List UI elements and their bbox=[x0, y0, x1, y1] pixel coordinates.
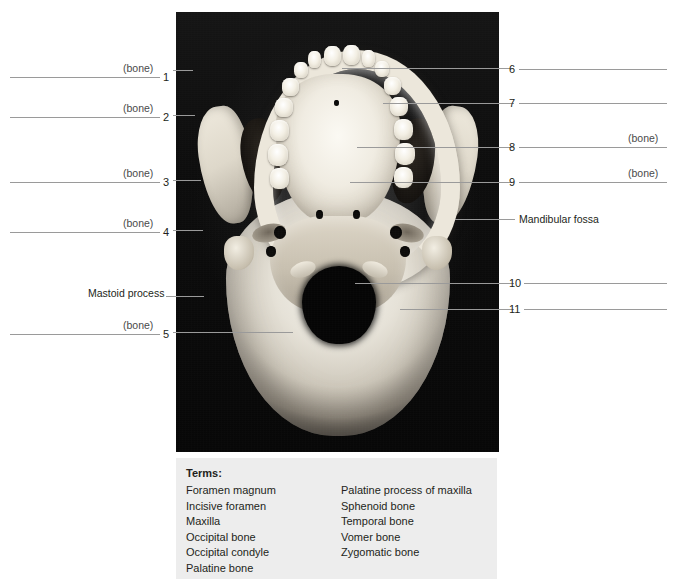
label-number-7: 7 bbox=[509, 98, 515, 109]
label-2-qualifier: (bone) bbox=[123, 103, 153, 114]
term-item: Temporal bone bbox=[341, 514, 496, 530]
term-item: Incisive foramen bbox=[186, 499, 341, 515]
term-item: Occipital condyle bbox=[186, 545, 341, 561]
label-number-11: 11 bbox=[509, 304, 520, 315]
term-item: Palatine process of maxilla bbox=[341, 483, 496, 499]
label-3-qualifier: (bone) bbox=[123, 168, 153, 179]
leader-tick-3 bbox=[173, 180, 201, 181]
leader-line-mandibular-fossa bbox=[455, 219, 515, 220]
terms-columns: Foramen magnum Incisive foramen Maxilla … bbox=[186, 483, 497, 576]
terms-column-2: Palatine process of maxilla Sphenoid bon… bbox=[341, 483, 496, 576]
term-item: Palatine bone bbox=[186, 561, 341, 577]
leader-line-2 bbox=[10, 117, 160, 118]
leader-tick-4 bbox=[173, 230, 203, 231]
leader-tick-9 bbox=[350, 182, 514, 183]
label-5-qualifier: (bone) bbox=[123, 320, 153, 331]
leader-line-10 bbox=[524, 283, 667, 284]
leader-tick-8 bbox=[357, 147, 514, 148]
label-number-4: 4 bbox=[163, 227, 169, 238]
label-number-1: 1 bbox=[163, 72, 169, 83]
label-number-5: 5 bbox=[163, 329, 169, 340]
terms-column-1: Foramen magnum Incisive foramen Maxilla … bbox=[186, 483, 341, 576]
label-1-qualifier: (bone) bbox=[123, 63, 153, 74]
terms-box: Terms: Foramen magnum Incisive foramen M… bbox=[176, 458, 497, 579]
label-mastoid-process: Mastoid process bbox=[88, 288, 164, 299]
leader-line-11 bbox=[524, 309, 667, 310]
label-4-qualifier: (bone) bbox=[123, 218, 153, 229]
term-item: Foramen magnum bbox=[186, 483, 341, 499]
leader-line-6 bbox=[519, 69, 667, 70]
leader-tick-1 bbox=[173, 70, 193, 71]
leader-tick-11 bbox=[400, 309, 514, 310]
label-number-8: 8 bbox=[509, 142, 515, 153]
label-number-9: 9 bbox=[509, 177, 515, 188]
figure-stage: (bone) 1 (bone) 2 (bone) 3 (bone) 4 Mast… bbox=[0, 0, 677, 579]
term-item: Occipital bone bbox=[186, 530, 341, 546]
leader-line-7 bbox=[519, 103, 667, 104]
leader-tick-5 bbox=[173, 332, 293, 333]
label-number-6: 6 bbox=[509, 64, 515, 75]
leader-line-mastoid-process bbox=[166, 296, 204, 297]
leader-tick-2 bbox=[173, 115, 195, 116]
terms-title: Terms: bbox=[186, 466, 497, 481]
label-9-qualifier: (bone) bbox=[628, 168, 658, 179]
leader-tick-10 bbox=[355, 283, 514, 284]
term-item: Vomer bone bbox=[341, 530, 496, 546]
label-8-qualifier: (bone) bbox=[628, 133, 658, 144]
leader-tick-6 bbox=[342, 68, 514, 69]
label-number-10: 10 bbox=[509, 278, 521, 289]
leader-line-9 bbox=[519, 182, 667, 183]
term-item: Maxilla bbox=[186, 514, 341, 530]
leader-line-1 bbox=[10, 77, 160, 78]
label-number-3: 3 bbox=[163, 177, 169, 188]
leader-line-4 bbox=[10, 232, 160, 233]
leader-line-8 bbox=[519, 147, 667, 148]
leader-tick-7 bbox=[383, 103, 514, 104]
photo-grain bbox=[176, 12, 499, 452]
term-item: Sphenoid bone bbox=[341, 499, 496, 515]
leader-line-5 bbox=[10, 334, 160, 335]
term-item: Zygomatic bone bbox=[341, 545, 496, 561]
label-mandibular-fossa: Mandibular fossa bbox=[519, 214, 599, 225]
skull-photograph bbox=[176, 12, 499, 452]
leader-line-3 bbox=[10, 182, 160, 183]
label-number-2: 2 bbox=[163, 112, 169, 123]
